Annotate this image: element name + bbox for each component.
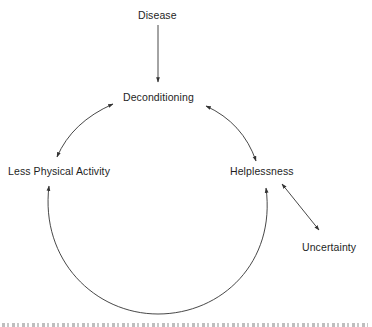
vicious-cycle-diagram: Disease Deconditioning Less Physical Act… bbox=[0, 0, 372, 327]
node-uncertainty: Uncertainty bbox=[302, 241, 356, 253]
arrow-deconditioning-helplessness bbox=[206, 106, 256, 161]
node-disease: Disease bbox=[138, 9, 177, 21]
node-less-physical-activity: Less Physical Activity bbox=[8, 165, 110, 177]
arrow-less-physical-activity-helplessness-arc bbox=[48, 186, 267, 314]
caption-text-fragment bbox=[2, 323, 368, 327]
node-helplessness: Helplessness bbox=[230, 165, 294, 177]
diagram-edges bbox=[0, 0, 372, 327]
node-deconditioning: Deconditioning bbox=[123, 91, 194, 103]
arrow-deconditioning-less-physical-activity bbox=[57, 104, 113, 157]
arrow-helplessness-uncertainty bbox=[282, 184, 319, 230]
figure-caption-cropped bbox=[0, 322, 372, 327]
